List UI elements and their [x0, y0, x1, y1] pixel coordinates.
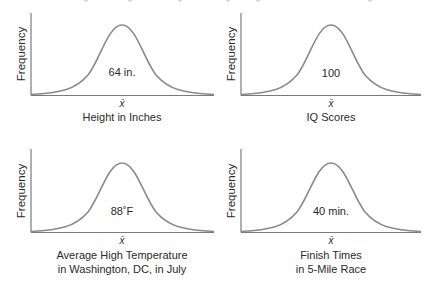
- x-axis-label-line2: in Washington, DC, in July: [58, 263, 187, 275]
- mean-value: 88˚F: [111, 205, 134, 217]
- y-axis-label: Frequency: [15, 27, 27, 82]
- figure-canvas: Frequency 64 in. x̄ Height in Inches Fre…: [0, 0, 438, 292]
- mean-symbol: x̄: [328, 235, 335, 246]
- y-axis-label: Frequency: [225, 164, 237, 219]
- mean-symbol: x̄: [119, 235, 126, 246]
- bell-curve: [31, 25, 214, 95]
- mean-value: 64 in.: [109, 66, 136, 78]
- x-axis-label: Height in Inches: [83, 111, 162, 123]
- x-axis-label-line1: Average High Temperature: [56, 249, 187, 261]
- x-axis-label: IQ Scores: [307, 111, 356, 123]
- panel-temperature: Frequency 88˚F x̄ Average High Temperatu…: [15, 149, 214, 275]
- panel-iq: Frequency 100 x̄ IQ Scores: [225, 13, 421, 123]
- mean-symbol: x̄: [119, 98, 126, 109]
- bell-curve: [31, 163, 214, 232]
- panel-height: Frequency 64 in. x̄ Height in Inches: [15, 13, 214, 123]
- bell-curve: [241, 163, 421, 232]
- mean-value: 40 min.: [313, 205, 349, 217]
- x-axis-label-line2: in 5-Mile Race: [296, 263, 366, 275]
- y-axis-label: Frequency: [225, 27, 237, 82]
- bell-curve: [241, 25, 421, 95]
- y-axis-label: Frequency: [15, 164, 27, 219]
- panel-finish-times: Frequency 40 min. x̄ Finish Times in 5-M…: [225, 149, 421, 275]
- mean-value: 100: [322, 67, 340, 79]
- x-axis-label-line1: Finish Times: [300, 249, 362, 261]
- mean-symbol: x̄: [328, 98, 335, 109]
